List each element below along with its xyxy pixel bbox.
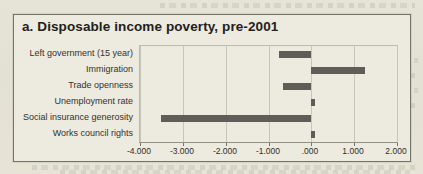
bar — [311, 131, 315, 138]
category-label: Left government (15 year) — [14, 45, 133, 61]
bleedthrough-line — [32, 165, 417, 170]
chart-panel: a. Disposable income poverty, pre-2001 L… — [13, 14, 411, 162]
x-tick-label: -2.000 — [213, 146, 237, 156]
x-tick-label: 2.000 — [385, 146, 406, 156]
category-label: Unemployment rate — [14, 93, 133, 109]
x-tick-label: -1.000 — [256, 146, 280, 156]
bar — [311, 67, 365, 74]
bar — [311, 99, 315, 106]
gridline — [140, 46, 141, 142]
x-tick-label: 1.000 — [342, 146, 363, 156]
plot-area — [139, 45, 398, 143]
category-label: Immigration — [14, 61, 133, 77]
gridline — [311, 46, 312, 142]
x-axis: -4.000-3.000-2.000-1.000.0001.0002.000 — [139, 146, 396, 158]
gridline — [354, 46, 355, 142]
bar — [279, 51, 311, 58]
x-tick-label: -4.000 — [127, 146, 151, 156]
category-label: Works council rights — [14, 125, 133, 141]
bleedthrough-line — [60, 170, 410, 174]
category-label-column: Left government (15 year)ImmigrationTrad… — [14, 45, 133, 141]
bar — [161, 115, 311, 122]
x-tick-label: -3.000 — [170, 146, 194, 156]
chart-title: a. Disposable income poverty, pre-2001 — [22, 19, 278, 34]
category-label: Social insurance generosity — [14, 109, 133, 125]
gridline — [397, 46, 398, 142]
category-label: Trade openness — [14, 77, 133, 93]
bar — [283, 83, 311, 90]
scanned-page: a. Disposable income poverty, pre-2001 L… — [0, 0, 423, 174]
gridline — [183, 46, 184, 142]
bleedthrough-line — [160, 3, 415, 8]
gridline — [269, 46, 270, 142]
x-tick-label: .000 — [302, 146, 319, 156]
gridline — [226, 46, 227, 142]
